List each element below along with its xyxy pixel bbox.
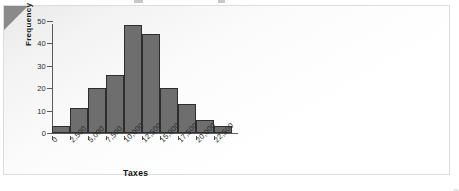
histogram-bar [52,126,70,133]
y-axis-tick-label: 40 [20,39,46,48]
y-axis-tick-label: 30 [20,62,46,71]
y-axis-tick-label: 10 [20,107,46,116]
histogram-figure: Frequency 01020304050 02,5005,0007,50010… [0,0,459,191]
top-edge-artifact [218,0,225,3]
x-axis-title: Taxes [123,168,148,178]
y-axis-tick [47,133,53,134]
top-edge-artifact [134,0,143,3]
plot-area: 01020304050 [48,18,238,136]
y-axis-tick-label: 20 [20,84,46,93]
histogram-bar [106,75,124,133]
y-axis-tick-label: 0 [20,129,46,138]
credit-text: © Cengage Learning [452,189,458,191]
y-axis-tick-label: 50 [20,17,46,26]
bar-series [52,21,238,133]
histogram-bar [142,34,160,133]
histogram-bar [124,25,142,133]
